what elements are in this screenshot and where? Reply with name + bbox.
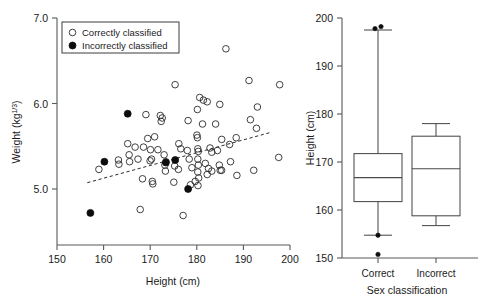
scatter-x-ticks: 150 160 170 180 190 200 [48, 245, 299, 265]
scatter-xtick-200: 200 [281, 253, 299, 265]
boxplot-ytick-160: 160 [315, 204, 333, 216]
boxplot-y-axis-title: Height (cm) [304, 111, 316, 165]
svg-text:Weight (kg1/3): Weight (kg1/3) [10, 101, 22, 164]
scatter-ytick-7: 7.0 [33, 12, 48, 24]
boxplot-category-correct: Correct [362, 268, 395, 279]
boxplot-panel: 200 190 180 170 160 150 Correct Incorrec… [300, 0, 488, 303]
scatter-panel: 7.0 6.0 5.0 150 160 170 180 190 200 Hei [0, 0, 300, 303]
boxplot-ytick-170: 170 [315, 156, 333, 168]
figure-container: 7.0 6.0 5.0 150 160 170 180 190 200 Hei [0, 0, 488, 303]
boxplot-x-axis-title: Sex classification [367, 284, 448, 296]
scatter-trendline [87, 132, 271, 183]
scatter-xtick-150: 150 [48, 253, 66, 265]
scatter-y-ticks: 7.0 6.0 5.0 [33, 12, 57, 195]
boxplot-ytick-200: 200 [315, 12, 333, 24]
scatter-y-axis-title-tail: ) [10, 101, 22, 105]
boxplot-ytick-180: 180 [315, 108, 333, 120]
boxplot-box-correct [354, 24, 402, 256]
scatter-data-layer [87, 46, 283, 219]
scatter-y-axis-title-main: Weight (kg [10, 113, 22, 163]
boxplot-x-ticks: Correct Incorrect [362, 258, 456, 279]
boxplot-y-ticks: 200 190 180 170 160 150 [315, 12, 342, 264]
scatter-xtick-160: 160 [95, 253, 113, 265]
boxplot-ytick-190: 190 [315, 60, 333, 72]
scatter-xtick-180: 180 [188, 253, 206, 265]
scatter-xtick-170: 170 [141, 253, 159, 265]
boxplot-category-incorrect: Incorrect [417, 268, 456, 279]
scatter-series-incorrect [87, 110, 192, 216]
boxplot-ytick-150: 150 [315, 252, 333, 264]
scatter-ytick-5: 5.0 [33, 183, 48, 195]
legend-marker-incorrect [69, 42, 76, 49]
boxplot-box-incorrect [412, 124, 460, 226]
scatter-y-axis-title-sup: 1/3 [11, 104, 18, 114]
scatter-ytick-6: 6.0 [33, 98, 48, 110]
scatter-y-axis-title: Weight (kg1/3) [10, 101, 22, 164]
scatter-legend[interactable]: Correctly classified Incorrectly classif… [62, 22, 179, 53]
scatter-xtick-190: 190 [235, 253, 253, 265]
legend-label-correct: Correctly classified [82, 27, 162, 38]
scatter-series-correct [96, 46, 283, 219]
boxplot-svg: 200 190 180 170 160 150 Correct Incorrec… [300, 0, 488, 303]
scatter-svg: 7.0 6.0 5.0 150 160 170 180 190 200 Hei [0, 0, 300, 303]
scatter-x-axis-title: Height (cm) [146, 275, 200, 287]
legend-label-incorrect: Incorrectly classified [82, 40, 168, 51]
